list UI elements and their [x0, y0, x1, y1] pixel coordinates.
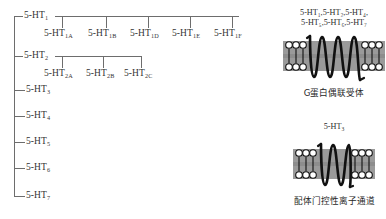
subtype-drop-ht1e — [190, 16, 191, 28]
tree-branch-stub — [14, 16, 23, 17]
subtype-drop-ht2b — [103, 56, 104, 68]
tree-node-5ht4: 5-HT4 — [26, 111, 50, 121]
ion-channel-panel: 5-HT3 — [282, 118, 386, 214]
subscript: 3 — [47, 88, 50, 95]
tree-branch-stub — [14, 196, 25, 197]
subscript: 1E — [193, 32, 200, 39]
tree-branch-stub — [14, 90, 25, 91]
subscript: 1D — [151, 32, 159, 39]
gpcr-panel: 5-HT₁,5-HT₂,5-HT₄, 5-HT₅,5-HT₆,5-HT₇ — [282, 4, 386, 104]
subtype-rail-ht1 — [55, 16, 239, 17]
subscript: 1A — [65, 32, 73, 39]
tree-trunk — [14, 16, 15, 197]
tree-node-5ht3: 5-HT3 — [26, 85, 50, 95]
tree-node-5ht2c: 5-HT2C — [124, 69, 152, 79]
tree-node-5ht1: 5-HT1 — [24, 11, 48, 21]
gpcr-receptor-list-line2: 5-HT₅,5-HT₆,5-HT₇ — [282, 18, 386, 28]
subscript: 1F — [235, 32, 242, 39]
figure-canvas: 5-HT1 5-HT2 5-HT3 5-HT4 5-HT5 5-HT6 5-HT… — [0, 0, 386, 219]
receptor-family-tree: 5-HT1 5-HT2 5-HT3 5-HT4 5-HT5 5-HT6 5-HT… — [0, 0, 270, 219]
subtype-drop-ht1a — [62, 16, 63, 28]
tree-node-5ht1e: 5-HT1E — [172, 29, 200, 39]
subtype-drop-ht2c — [141, 56, 142, 68]
tree-node-5ht1d: 5-HT1D — [130, 29, 159, 39]
subscript: 2 — [45, 54, 48, 61]
subscript: 2A — [65, 72, 73, 79]
tree-branch-stub — [14, 116, 25, 117]
subtype-drop-ht1f — [232, 16, 233, 28]
gpcr-caption: G蛋白偶联受体 — [282, 86, 386, 98]
tree-node-5ht2: 5-HT2 — [24, 51, 48, 61]
tree-node-5ht1b: 5-HT1B — [88, 29, 116, 39]
tree-node-5ht5: 5-HT5 — [26, 137, 50, 147]
ion-channel-receptor-label: 5-HT3 — [282, 122, 386, 132]
ion-channel-caption: 配体门控性离子通道 — [282, 194, 386, 206]
subscript: 6 — [47, 166, 50, 173]
seven-transmembrane-helix-icon — [283, 30, 385, 82]
subscript: 2B — [107, 72, 114, 79]
gpcr-receptor-list-line1: 5-HT₁,5-HT₂,5-HT₄, — [282, 8, 386, 18]
tree-branch-stub — [14, 142, 25, 143]
subtype-rail-ht2 — [55, 56, 142, 57]
subscript: 3 — [341, 126, 344, 132]
four-transmembrane-helix-icon — [293, 140, 375, 190]
tree-branch-stub — [14, 168, 25, 169]
tree-node-5ht6: 5-HT6 — [26, 163, 50, 173]
subscript: 5 — [47, 140, 50, 147]
subtype-drop-ht1d — [148, 16, 149, 28]
subscript: 2C — [145, 72, 152, 79]
tree-branch-stub — [14, 56, 23, 57]
subtype-drop-ht2a — [62, 56, 63, 68]
subscript: 1 — [45, 14, 48, 21]
subscript: 1B — [109, 32, 116, 39]
tree-node-5ht2a: 5-HT2A — [44, 69, 73, 79]
subscript: 7 — [47, 194, 50, 201]
subtype-drop-ht1b — [106, 16, 107, 28]
tree-node-5ht2b: 5-HT2B — [86, 69, 114, 79]
tree-node-5ht7: 5-HT7 — [26, 191, 50, 201]
subscript: 4 — [47, 114, 50, 121]
tree-node-5ht1f: 5-HT1F — [214, 29, 242, 39]
tree-node-5ht1a: 5-HT1A — [44, 29, 73, 39]
